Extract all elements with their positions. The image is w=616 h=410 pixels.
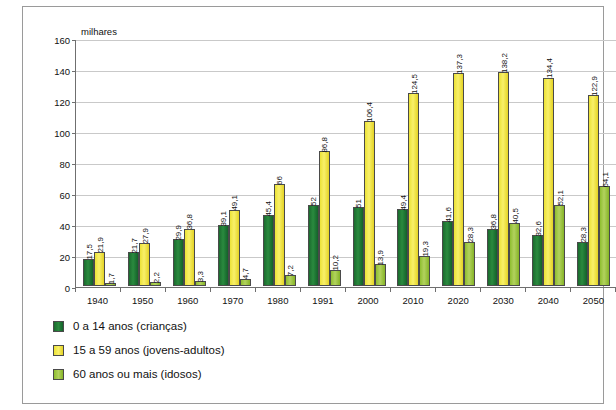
legend-item[interactable]: 15 a 59 anos (jovens-adultos)	[53, 344, 225, 356]
x-axis-tick-mark	[210, 288, 211, 292]
x-axis-tick-label: 1970	[210, 288, 255, 312]
bar-value-label: 21,7	[128, 238, 139, 254]
y-axis-tick-label: 160	[54, 35, 70, 46]
bar-value-label: 51	[353, 199, 364, 208]
y-axis-tick-mark	[72, 102, 76, 103]
x-axis-tick-mark	[525, 288, 526, 292]
bar[interactable]: 10,2	[330, 270, 341, 286]
cut-off-title	[22, 0, 542, 3]
bar[interactable]: 4,7	[240, 279, 251, 286]
bar-value-label: 2,2	[150, 272, 161, 283]
bar-group: 21,727,92,2	[122, 40, 167, 286]
bar-value-label: 29,9	[173, 225, 184, 241]
bar-groups: 17,521,91,721,727,92,229,936,83,339,149,…	[77, 40, 616, 286]
x-axis-tick-label: 2030	[481, 288, 526, 312]
bar[interactable]: 17,5	[83, 259, 94, 286]
bar-group: 17,521,91,7	[77, 40, 122, 286]
bar-value-label: 122,9	[588, 76, 599, 96]
legend-label: 60 anos ou mais (idosos)	[73, 368, 201, 380]
bar[interactable]: 19,3	[419, 256, 430, 286]
bar[interactable]: 124,5	[408, 93, 419, 286]
legend-item[interactable]: 60 anos ou mais (idosos)	[53, 368, 225, 380]
legend-label: 0 a 14 anos (crianças)	[73, 320, 187, 332]
y-axis-tick-label: 140	[54, 66, 70, 77]
bar[interactable]: 49,1	[229, 210, 240, 286]
chart-frame: milhares 020406080100120140160 17,521,91…	[22, 6, 604, 404]
bar[interactable]: 39,1	[218, 225, 229, 286]
x-axis-labels: 1940195019601970198019912000201020202030…	[75, 288, 616, 312]
bar[interactable]: 21,7	[128, 252, 139, 286]
bar[interactable]: 41,6	[442, 221, 453, 285]
x-axis-tick-label: 1991	[300, 288, 345, 312]
bar-value-label: 49,1	[229, 195, 240, 211]
bar-value-label: 45,4	[263, 201, 274, 217]
y-axis-tick-label: 100	[54, 128, 70, 139]
bar[interactable]: 122,9	[588, 95, 599, 285]
bar-group: 32,6134,452,1	[526, 40, 571, 286]
bar[interactable]: 51	[353, 207, 364, 286]
bar-value-label: 41,6	[442, 207, 453, 223]
x-axis-label-text: 2000	[357, 295, 378, 306]
legend-item[interactable]: 0 a 14 anos (crianças)	[53, 320, 225, 332]
bar-value-label: 3,3	[195, 271, 206, 282]
bar-value-label: 1,7	[105, 273, 116, 284]
bar[interactable]: 52,1	[554, 205, 565, 286]
bar[interactable]: 106,4	[364, 121, 375, 286]
x-axis-label-text: 1940	[87, 295, 108, 306]
x-axis-label-text: 1991	[312, 295, 333, 306]
y-axis-tick-mark	[72, 164, 76, 165]
bar[interactable]: 2,2	[150, 282, 161, 285]
bar[interactable]: 3,3	[195, 281, 206, 286]
x-axis-tick-mark	[570, 288, 571, 292]
bar[interactable]: 134,4	[543, 78, 554, 286]
bar[interactable]: 64,1	[599, 186, 610, 285]
x-axis-label-text: 1970	[222, 295, 243, 306]
bar[interactable]: 138,2	[498, 72, 509, 286]
bar-value-label: 66	[274, 176, 285, 185]
y-axis-tick-label: 120	[54, 97, 70, 108]
bar[interactable]: 45,4	[263, 215, 274, 285]
bar[interactable]: 13,9	[375, 264, 386, 286]
bar-value-label: 27,9	[139, 228, 150, 244]
legend-swatch	[53, 345, 64, 356]
bar[interactable]: 49,4	[397, 209, 408, 286]
y-axis-tick-mark	[72, 133, 76, 134]
bar[interactable]: 52	[308, 205, 319, 286]
x-axis-tick-mark	[255, 288, 256, 292]
x-axis-tick-mark	[75, 288, 76, 292]
bar[interactable]: 29,9	[173, 239, 184, 285]
x-axis-tick-mark	[480, 288, 481, 292]
bar[interactable]: 66	[274, 184, 285, 286]
x-axis-tick-mark	[390, 288, 391, 292]
bar[interactable]: 36,8	[184, 229, 195, 286]
bar-value-label: 138,2	[498, 53, 509, 73]
y-axis-tick-mark	[72, 40, 76, 41]
x-axis-label-text: 2030	[493, 295, 514, 306]
bar[interactable]: 86,8	[319, 151, 330, 286]
legend-swatch	[53, 321, 64, 332]
bar-value-label: 19,3	[419, 241, 430, 257]
bar[interactable]: 36,8	[487, 229, 498, 286]
x-axis-tick-mark	[300, 288, 301, 292]
bar[interactable]: 32,6	[532, 235, 543, 286]
bar[interactable]: 28,3	[577, 242, 588, 286]
bar-group: 45,4667,2	[257, 40, 302, 286]
bar[interactable]: 27,9	[139, 243, 150, 286]
bar-value-label: 64,1	[599, 172, 610, 188]
x-axis-label-text: 2040	[538, 295, 559, 306]
x-axis-tick-label: 1950	[120, 288, 165, 312]
plot-area: 020406080100120140160 17,521,91,721,727,…	[75, 40, 616, 288]
y-axis-tick-label: 60	[59, 190, 70, 201]
bar[interactable]: 1,7	[105, 283, 116, 286]
bar-value-label: 39,1	[218, 211, 229, 227]
bar[interactable]: 7,2	[285, 275, 296, 286]
bar[interactable]: 28,3	[464, 242, 475, 286]
x-axis-tick-label: 2000	[345, 288, 390, 312]
bar-value-label: 52	[308, 197, 319, 206]
bar-value-label: 28,3	[464, 227, 475, 243]
bar[interactable]: 21,9	[94, 252, 105, 286]
bar[interactable]: 137,3	[453, 73, 464, 286]
y-axis-tick-mark	[72, 257, 76, 258]
bar-value-label: 124,5	[408, 74, 419, 94]
bar[interactable]: 40,5	[509, 223, 520, 286]
